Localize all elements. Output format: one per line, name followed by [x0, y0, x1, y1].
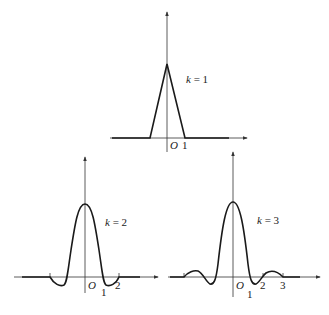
panel-k3: O 1 2 3 k = 3 [168, 152, 320, 300]
tick-label-2: 2 [260, 279, 266, 291]
k-label: k = 1 [186, 73, 208, 85]
tick-label-1: 1 [247, 288, 253, 300]
k-label: k = 2 [105, 216, 127, 228]
kernel-diagram: O 1 k = 1 O 1 2 k = 2 O 1 2 3 k = 3 [0, 0, 329, 315]
k-label: k = 3 [257, 214, 280, 226]
panel-k2: O 1 2 k = 2 [14, 157, 158, 298]
tick-label-1: 1 [101, 286, 107, 298]
curve-k3 [170, 202, 300, 284]
origin-label: O [236, 279, 244, 291]
origin-label: O [88, 279, 96, 291]
origin-label: O [170, 139, 178, 151]
tick-label-1: 1 [182, 139, 188, 151]
tick-label-2: 2 [115, 279, 121, 291]
diagram-canvas: O 1 k = 1 O 1 2 k = 2 O 1 2 3 k = 3 [0, 0, 329, 315]
tick-label-3: 3 [280, 279, 286, 291]
curve-k1 [112, 64, 229, 138]
panel-k1: O 1 k = 1 [110, 12, 247, 152]
